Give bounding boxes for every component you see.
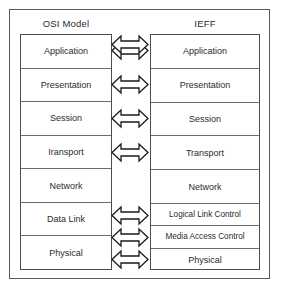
osi-layer-network: Network [21, 169, 111, 203]
osi-layer-transport: Iransport [21, 136, 111, 170]
double-headed-arrow-icon [111, 74, 149, 95]
double-headed-arrow-icon [111, 249, 149, 270]
osi-layer-physical: Physical [21, 236, 111, 269]
ieff-layer-presentation: Presentation [151, 69, 259, 103]
column-header-ieff: IEFF [150, 18, 260, 29]
ieff-layer-transport: Transport [151, 136, 259, 170]
diagram-frame: OSI Model IEFF Application Presentation … [9, 9, 270, 279]
double-headed-arrow-icon [111, 205, 149, 226]
ieff-layer-media-access-control: Media Access Control [151, 226, 259, 248]
connector-arrow-column [110, 34, 150, 270]
ieff-layer-stack: Application Presentation Session Transpo… [150, 34, 260, 270]
osi-layer-application: Application [21, 35, 111, 69]
double-headed-arrow-icon [111, 34, 149, 55]
ieff-layer-session: Session [151, 103, 259, 137]
ieff-layer-logical-link-control: Logical Link Control [151, 204, 259, 226]
osi-layer-session: Session [21, 102, 111, 136]
osi-layer-data-link: Data Link [21, 203, 111, 237]
column-header-osi: OSI Model [20, 18, 112, 29]
ieff-layer-network: Network [151, 170, 259, 204]
double-headed-arrow-icon [111, 227, 149, 248]
ieff-layer-application: Application [151, 35, 259, 69]
osi-layer-stack: Application Presentation Session Iranspo… [20, 34, 112, 270]
double-headed-arrow-icon [111, 142, 149, 163]
osi-layer-presentation: Presentation [21, 69, 111, 103]
ieff-layer-physical: Physical [151, 249, 259, 271]
double-headed-arrow-icon [111, 108, 149, 129]
